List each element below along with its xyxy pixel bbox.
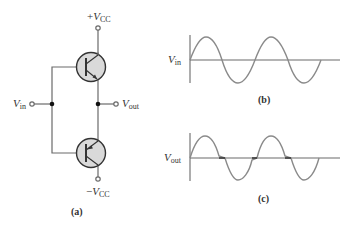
- symbol: V: [93, 10, 100, 22]
- symbol: V: [168, 53, 175, 65]
- subscript: out: [171, 156, 181, 165]
- output-terminal: [114, 102, 118, 106]
- circuit-caption: (a): [71, 207, 83, 217]
- input-junction-dot: [50, 102, 55, 107]
- pnp-transistor-icon: [77, 139, 106, 168]
- input-terminal: [30, 102, 34, 106]
- output-waveform: [190, 133, 340, 181]
- input-waveform-label: Vin: [168, 54, 181, 67]
- npn-transistor-icon: [77, 53, 106, 82]
- input-waveform-caption: (b): [258, 95, 270, 105]
- output-waveform-caption: (c): [258, 194, 269, 204]
- subscript: in: [20, 102, 26, 111]
- subscript: out: [129, 102, 139, 111]
- positive-supply-label: +VCC: [87, 11, 111, 24]
- subscript: in: [175, 58, 181, 67]
- symbol: V: [122, 97, 129, 109]
- positive-supply-terminal: [96, 26, 100, 30]
- symbol: V: [164, 151, 171, 163]
- symbol: V: [13, 97, 20, 109]
- circuit-and-waveforms: [0, 0, 354, 225]
- output-junction-dot: [96, 102, 101, 107]
- output-waveform-label: Vout: [164, 152, 181, 165]
- symbol: V: [92, 185, 99, 197]
- negative-supply-terminal: [96, 177, 100, 181]
- subscript: CC: [99, 190, 110, 199]
- input-waveform: [190, 35, 340, 83]
- negative-supply-label: −VCC: [86, 186, 110, 199]
- input-label: Vin: [13, 98, 26, 111]
- output-label: Vout: [122, 98, 139, 111]
- subscript: CC: [100, 15, 111, 24]
